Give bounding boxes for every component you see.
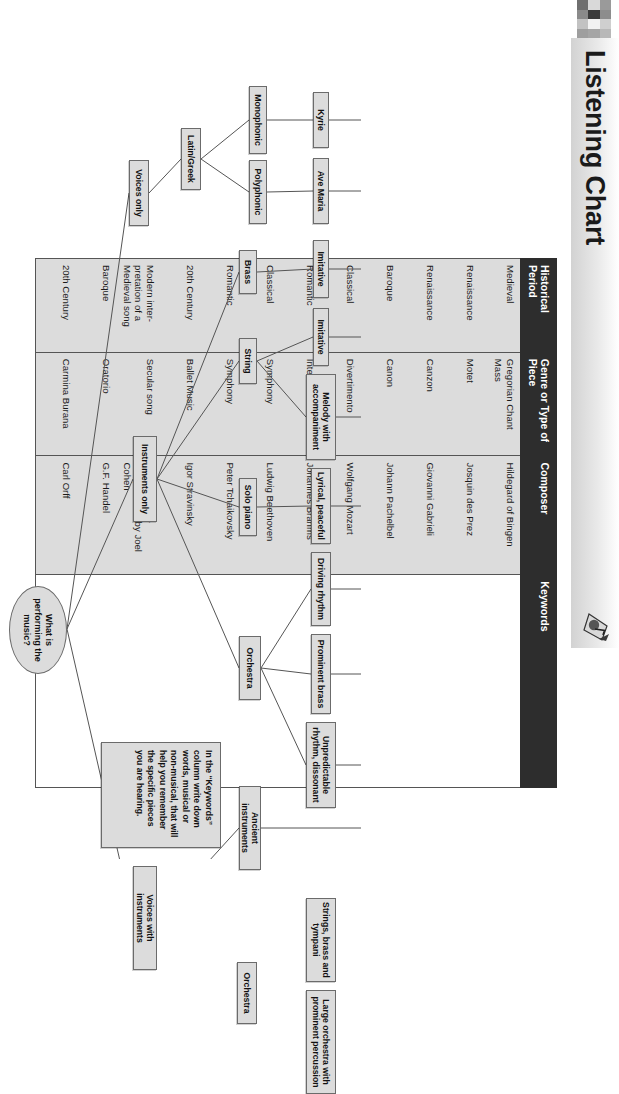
cell-composer: Josquin des Prez bbox=[440, 456, 480, 575]
diagram-node-label: Orchestra bbox=[242, 972, 253, 1013]
cell-keywords[interactable] bbox=[117, 575, 161, 788]
table-row: RomanticSymphonyPeter Tchaikovsky bbox=[200, 259, 240, 788]
cell-keywords[interactable] bbox=[280, 575, 320, 788]
table-row: BaroqueCanonJohann Pachelbel bbox=[360, 259, 400, 788]
table-row: MedievalGregorian Chant MassHildegard of… bbox=[480, 259, 521, 788]
cell-historical-period: Baroque bbox=[77, 259, 117, 353]
cell-keywords[interactable] bbox=[240, 575, 280, 788]
cell-keywords[interactable] bbox=[440, 575, 480, 788]
diagram-node-label: Monophonic bbox=[253, 94, 264, 146]
cell-historical-period: Classical bbox=[320, 259, 360, 353]
diagram-node-orchestra-2[interactable]: Orchestra bbox=[237, 962, 257, 1024]
cell-keywords[interactable] bbox=[160, 575, 200, 788]
diagram-node-monophonic[interactable]: Monophonic bbox=[249, 86, 267, 154]
diagram-edge bbox=[157, 828, 239, 859]
cell-keywords[interactable] bbox=[480, 575, 521, 788]
cell-historical-period: 20th Century bbox=[160, 259, 200, 353]
color-swatch bbox=[588, 10, 599, 20]
cell-genre: Ballet Music bbox=[160, 352, 200, 456]
color-swatch bbox=[588, 19, 599, 29]
diagram-edge bbox=[201, 159, 249, 192]
cell-genre: Canzon bbox=[400, 352, 440, 456]
diagram-node-label: Strings, brass and tympani bbox=[311, 902, 332, 978]
diagram-node-large-orchestra[interactable]: Large orchestra with prominent percussio… bbox=[306, 990, 336, 1094]
diagram-edge bbox=[267, 191, 313, 192]
cell-keywords[interactable] bbox=[360, 575, 400, 788]
table-header-row: Historical Period Genre or Type of Piece… bbox=[521, 259, 557, 788]
musical-note-icon bbox=[582, 612, 610, 642]
color-swatch bbox=[577, 0, 588, 10]
diagram-node-polyphonic[interactable]: Polyphonic bbox=[249, 160, 267, 224]
cell-genre: Oratorio bbox=[77, 352, 117, 456]
diagram-node-ancient-instruments[interactable]: Ancient instruments bbox=[239, 786, 261, 870]
table-row: RenaissanceCanzonGiovanni Gabrieli bbox=[400, 259, 440, 788]
title-bar: Listening Chart bbox=[569, 0, 619, 859]
cell-composer: Wolfgang Mozart bbox=[320, 456, 360, 575]
table-row: 20th CenturyCarmina BuranaCarl Orff bbox=[36, 259, 77, 788]
cell-genre: Symphony bbox=[240, 352, 280, 456]
table-body: MedievalGregorian Chant MassHildegard of… bbox=[36, 259, 521, 788]
diagram-node-label: Ave Maria bbox=[316, 171, 327, 212]
cell-composer: Anonymous—Interpretation by Joel Cohen bbox=[117, 456, 161, 575]
diagram-node-label: Ancient instruments bbox=[240, 790, 261, 866]
column-header-historical-period: Historical Period bbox=[521, 259, 557, 353]
color-swatch bbox=[588, 29, 599, 39]
table-row: 20th CenturyBallet MusicIgor Stravinsky bbox=[160, 259, 200, 788]
cell-historical-period: Baroque bbox=[360, 259, 400, 353]
diagram-node-label: Voices with instruments bbox=[135, 870, 156, 966]
color-swatch bbox=[588, 0, 599, 10]
cell-historical-period: Classical bbox=[240, 259, 280, 353]
cell-genre: Motet bbox=[440, 352, 480, 456]
color-swatch bbox=[577, 29, 588, 39]
column-header-keywords: Keywords bbox=[521, 575, 557, 788]
diagram-node-label: Large orchestra with prominent percussio… bbox=[311, 994, 332, 1090]
cell-historical-period: Renaissance bbox=[440, 259, 480, 353]
cell-composer: G.F. Handel bbox=[77, 456, 117, 575]
diagram-edge bbox=[149, 159, 181, 193]
cell-keywords[interactable] bbox=[400, 575, 440, 788]
color-swatch bbox=[600, 0, 611, 10]
cell-genre: Canon bbox=[360, 352, 400, 456]
diagram-edge bbox=[201, 120, 249, 159]
diagram-node-latin-greek[interactable]: Latin/Greek bbox=[181, 128, 201, 190]
cell-composer: Ludwig Beethoven bbox=[240, 456, 280, 575]
cell-keywords[interactable] bbox=[200, 575, 240, 788]
page-title: Listening Chart bbox=[577, 50, 613, 245]
table-row: Modern inter-pretation of a Medieval son… bbox=[117, 259, 161, 788]
table-row: BaroqueOratorioG.F. Handel bbox=[77, 259, 117, 788]
table-row: RenaissanceMotetJosquin des Prez bbox=[440, 259, 480, 788]
cell-composer: Peter Tchaikovsky bbox=[200, 456, 240, 575]
column-header-composer: Composer bbox=[521, 456, 557, 575]
cell-genre: Gregorian Chant Mass bbox=[480, 352, 521, 456]
diagram-node-ave-maria[interactable]: Ave Maria bbox=[313, 158, 329, 224]
diagram-node-strings-brass-tympani[interactable]: Strings, brass and tympani bbox=[306, 898, 336, 982]
cell-keywords[interactable] bbox=[36, 575, 77, 788]
cell-keywords[interactable] bbox=[77, 575, 117, 788]
diagram-node-label: Polyphonic bbox=[253, 169, 264, 216]
cell-genre: Divertimento bbox=[320, 352, 360, 456]
cell-historical-period: Modern inter-pretation of a Medieval son… bbox=[117, 259, 161, 353]
listening-chart-table: Historical Period Genre or Type of Piece… bbox=[36, 258, 558, 788]
color-swatch bbox=[577, 19, 588, 29]
cell-genre: Secular song bbox=[117, 352, 161, 456]
cell-keywords[interactable] bbox=[320, 575, 360, 788]
cell-genre: Carmina Burana bbox=[36, 352, 77, 456]
diagram-node-label: Latin/Greek bbox=[186, 135, 197, 183]
cell-historical-period: Romantic bbox=[280, 259, 320, 353]
color-swatch-strip bbox=[577, 0, 611, 38]
diagram-node-voices-only[interactable]: Voices only bbox=[129, 160, 149, 226]
diagram-node-voices-with-instruments[interactable]: Voices with instruments bbox=[133, 866, 157, 970]
cell-historical-period: Renaissance bbox=[400, 259, 440, 353]
cell-genre: Symphony bbox=[200, 352, 240, 456]
cell-composer: Johann Pachelbel bbox=[360, 456, 400, 575]
cell-historical-period: 20th Century bbox=[36, 259, 77, 353]
cell-historical-period: Medieval bbox=[480, 259, 521, 353]
diagram-node-kyrie[interactable]: Kyrie bbox=[313, 92, 329, 148]
color-swatch bbox=[600, 19, 611, 29]
diagram-node-label: Kyrie bbox=[316, 109, 327, 131]
cell-composer: Igor Stravinsky bbox=[160, 456, 200, 575]
cell-historical-period: Romantic bbox=[200, 259, 240, 353]
cell-composer: Hildegard of Bingen bbox=[480, 456, 521, 575]
table-row: ClassicalDivertimentoWolfgang Mozart bbox=[320, 259, 360, 788]
cell-genre: Intermezzo bbox=[280, 352, 320, 456]
